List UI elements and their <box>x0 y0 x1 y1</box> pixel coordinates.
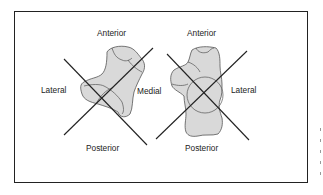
left-label-posterior: Posterior <box>86 143 119 153</box>
left-label-anterior: Anterior <box>97 28 126 38</box>
right-label-posterior: Posterior <box>185 143 218 153</box>
right-bone-shape <box>171 47 223 137</box>
foot-orientation-diagram <box>0 0 323 195</box>
left-bone-shape <box>81 46 145 117</box>
right-label-lateral: Lateral <box>231 85 256 95</box>
right-label-anterior: Anterior <box>187 28 216 38</box>
left-label-medial: Medial <box>137 86 161 96</box>
left-label-lateral: Lateral <box>41 85 66 95</box>
